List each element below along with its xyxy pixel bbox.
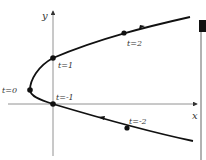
point-t1 xyxy=(50,55,56,61)
parametric-curve-diagram: y x t=0 t=1 t=-1 t=2 t=-2 xyxy=(0,0,206,160)
edge-bar xyxy=(199,20,206,32)
curve xyxy=(30,17,193,141)
y-axis-label: y xyxy=(41,10,48,21)
label-t1: t=1 xyxy=(58,61,73,70)
label-t2: t=2 xyxy=(127,39,142,48)
point-tm1 xyxy=(50,101,56,107)
label-tm2: t=-2 xyxy=(129,117,147,126)
point-t0 xyxy=(27,87,33,93)
point-t2 xyxy=(121,30,126,35)
point-tm2 xyxy=(124,125,129,130)
label-t0: t=0 xyxy=(2,86,17,95)
label-tm1: t=-1 xyxy=(56,93,74,102)
diagram-svg: y x t=0 t=1 t=-1 t=2 t=-2 xyxy=(0,0,206,160)
x-axis-label: x xyxy=(192,110,198,121)
